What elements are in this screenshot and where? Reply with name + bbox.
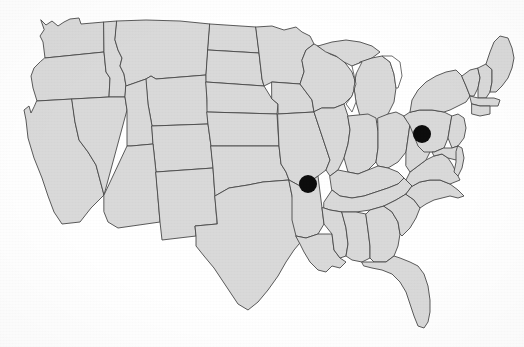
state-nebraska	[206, 82, 278, 114]
state-new-hampshire	[478, 64, 492, 98]
state-south-dakota	[206, 50, 264, 86]
state-oregon	[31, 52, 110, 101]
state-outlines	[24, 18, 514, 328]
state-new-york	[410, 70, 470, 112]
state-kansas	[207, 112, 279, 146]
state-ohio	[376, 112, 410, 168]
state-connecticut	[472, 104, 490, 116]
marker-missouri[interactable]	[299, 175, 317, 193]
us-map-figure	[0, 0, 524, 347]
us-states-map	[0, 0, 524, 347]
marker-pennsylvania[interactable]	[413, 125, 431, 143]
state-colorado	[152, 124, 213, 172]
state-wyoming	[146, 75, 208, 126]
state-north-dakota	[208, 24, 259, 53]
state-indiana	[344, 114, 378, 174]
state-washington	[40, 18, 104, 58]
state-florida	[362, 256, 430, 328]
